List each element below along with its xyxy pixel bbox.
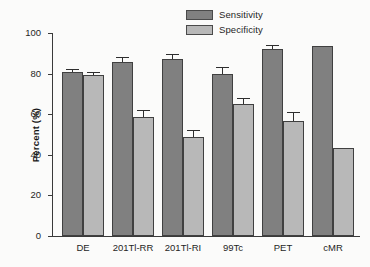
bar-group — [312, 33, 354, 236]
error-bar-cap — [266, 45, 279, 46]
bar-specificity — [133, 117, 154, 236]
chart-legend: Sensitivity Specificity — [186, 9, 263, 36]
y-axis-tick-label: 80 — [30, 69, 41, 79]
y-axis-tick-label: 100 — [25, 28, 41, 38]
y-axis-tick: 20 — [48, 195, 53, 196]
bar-sensitivity — [162, 59, 183, 236]
y-axis-tick: 40 — [48, 155, 53, 156]
legend-item-sensitivity: Sensitivity — [186, 9, 263, 21]
bar-specificity — [283, 121, 304, 236]
y-axis-line — [52, 33, 53, 236]
error-bar-cap — [287, 112, 300, 113]
y-axis-tick: 80 — [48, 74, 53, 75]
x-axis-tick-label: cMR — [288, 242, 370, 253]
error-bar-cap — [187, 130, 200, 131]
bar-group — [162, 33, 204, 236]
error-bar-cap — [137, 110, 150, 111]
bar-specificity — [83, 75, 104, 236]
legend-swatch-sensitivity — [186, 10, 213, 20]
bar-chart-figure: Sensitivity Specificity Percent (%) 0204… — [0, 0, 370, 267]
bar-sensitivity — [112, 62, 133, 236]
error-bar-cap — [66, 69, 79, 70]
error-bar-cap — [166, 54, 179, 55]
y-axis-tick-label: 60 — [30, 109, 41, 119]
error-bar-cap — [237, 98, 250, 99]
bar-sensitivity — [212, 74, 233, 236]
error-bar-cap — [87, 72, 100, 73]
bar-specificity — [333, 148, 354, 236]
error-bar-cap — [216, 67, 229, 68]
bar-group — [112, 33, 154, 236]
y-axis-tick: 0 — [48, 236, 53, 237]
y-axis-tick-label: 20 — [30, 191, 41, 201]
bar-specificity — [233, 104, 254, 236]
x-axis-line — [52, 236, 360, 237]
bar-group — [212, 33, 254, 236]
error-bar — [293, 113, 294, 121]
y-axis-tick-label: 40 — [30, 150, 41, 160]
plot-area: Percent (%) 020406080100 DE201Tl-RR201Tl… — [53, 33, 360, 236]
bar-sensitivity — [62, 72, 83, 236]
bar-specificity — [183, 137, 204, 236]
bar-sensitivity — [312, 46, 333, 236]
bar-group — [262, 33, 304, 236]
y-axis-tick-label: 0 — [36, 231, 41, 241]
y-axis-tick: 100 — [48, 33, 53, 34]
legend-label-sensitivity: Sensitivity — [219, 10, 263, 20]
y-axis-tick: 60 — [48, 114, 53, 115]
bar-group — [62, 33, 104, 236]
error-bar-cap — [116, 57, 129, 58]
bar-sensitivity — [262, 49, 283, 236]
